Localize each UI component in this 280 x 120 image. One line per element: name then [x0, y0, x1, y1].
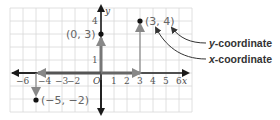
point-0-3: (0, 3) [66, 28, 104, 41]
svg-text:3: 3 [137, 76, 143, 86]
svg-text:4: 4 [92, 16, 98, 26]
svg-text:2: 2 [124, 76, 130, 86]
point-label: (3, 4) [145, 15, 175, 28]
annotation-arrows [156, 28, 206, 59]
point-label: (0, 3) [66, 28, 96, 41]
origin-label: O [93, 76, 101, 86]
coordinate-plane: −6 −4 −3 −2 1 2 3 4 5 6 x O 4 1 y (0, 3)… [0, 0, 280, 120]
point-label: (−5, −2) [41, 94, 89, 107]
x-axis-label: x [182, 76, 187, 86]
y-axis-label: y [104, 6, 111, 16]
svg-text:1: 1 [92, 55, 98, 65]
y-coordinate-annotation: y-coordinate [208, 37, 272, 49]
svg-text:4: 4 [150, 76, 156, 86]
x-coordinate-annotation: x-coordinate [208, 53, 272, 65]
svg-text:−2: −2 [67, 76, 80, 86]
svg-text:5: 5 [163, 76, 169, 86]
svg-text:1: 1 [111, 76, 117, 86]
point-dot [137, 18, 142, 23]
point-dot [33, 97, 38, 102]
point-neg5-neg2: (−5, −2) [33, 94, 89, 107]
svg-text:−4: −4 [38, 76, 52, 86]
point-dot [98, 31, 103, 36]
svg-text:−6: −6 [16, 76, 30, 86]
point-3-4: (3, 4) [137, 15, 174, 28]
